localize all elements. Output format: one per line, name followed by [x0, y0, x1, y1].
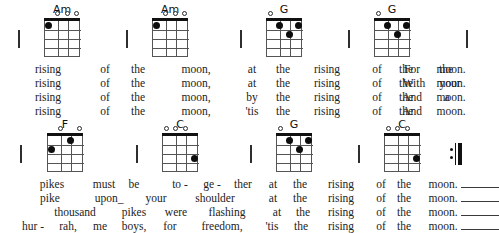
- fret-grid-lines: [47, 136, 83, 172]
- open-string-markers: [266, 11, 302, 18]
- string-line: [176, 136, 177, 172]
- lyric-syllable: the: [397, 191, 411, 205]
- open-string-circle-icon: [163, 11, 168, 16]
- lyric-syllable: the: [276, 104, 290, 118]
- lyric-syllable: of: [372, 90, 382, 104]
- open-string-circle-icon: [74, 11, 79, 16]
- barline: [358, 145, 360, 163]
- lyric-syllable: moon,: [181, 62, 210, 76]
- barline: [126, 30, 128, 48]
- open-string-markers: [276, 126, 312, 133]
- fret-line: [267, 48, 303, 49]
- lyric-syllable: rising: [328, 177, 354, 191]
- lyric-syllable: of: [376, 205, 386, 219]
- barline: [466, 30, 468, 48]
- lyric-line: risingofthemoon,attherisingofthemoon.Wit…: [0, 76, 480, 90]
- lyric-syllable: for: [163, 219, 176, 233]
- lyric-syllable: the: [276, 76, 290, 90]
- string-line: [186, 136, 187, 172]
- lyric-syllable: at: [269, 191, 277, 205]
- open-string-circle-icon: [183, 126, 188, 131]
- lyric-syllable: freedom,: [201, 219, 242, 233]
- fret-line: [153, 39, 189, 40]
- chord-diagram-am[interactable]: Am: [138, 4, 202, 60]
- lyric-syllable: at: [273, 205, 281, 219]
- lyric-syllable: rising: [35, 104, 61, 118]
- fretboard-grid: [47, 133, 83, 173]
- fret-line: [163, 163, 199, 164]
- lyrics-block: risingofthemoon,attherisingofthemoon.For…: [0, 62, 480, 118]
- chord-diagram-c[interactable]: C: [370, 119, 434, 175]
- lyric-syllable: thousand: [54, 205, 96, 219]
- fretboard-grid: [384, 133, 420, 173]
- fret-line: [153, 30, 189, 31]
- lyric-syllable: pikes: [122, 205, 146, 219]
- chord-diagram-g[interactable]: G: [252, 4, 316, 60]
- fret-line: [45, 30, 81, 31]
- open-string-markers: [152, 11, 188, 18]
- open-string-circle-icon: [268, 11, 273, 16]
- lyric-syllable: the: [397, 219, 411, 233]
- finger-position-dot: [384, 22, 391, 29]
- lyric-syllable: rising: [314, 76, 340, 90]
- string-line: [290, 21, 291, 57]
- lyric-syllable: ther: [234, 177, 252, 191]
- finger-position-dot: [67, 137, 74, 144]
- finger-position-dot: [305, 137, 312, 144]
- lyric-syllable: moon.: [436, 104, 465, 118]
- chord-diagram-row: AmAmGG: [0, 4, 480, 60]
- string-line: [398, 21, 399, 57]
- lyric-syllable: at: [248, 62, 256, 76]
- lyric-syllable: the: [293, 177, 307, 191]
- fret-line: [153, 48, 189, 49]
- lyric-syllable: the: [276, 62, 290, 76]
- lyric-syllable: the: [131, 62, 145, 76]
- finger-position-dot: [286, 31, 293, 38]
- lyric-syllable: be: [129, 177, 140, 191]
- string-line: [58, 21, 59, 57]
- finger-position-dot: [394, 31, 401, 38]
- chord-diagram-row: FCGC: [0, 119, 480, 175]
- chord-diagram-f[interactable]: F: [33, 119, 97, 175]
- lyrics-block: pikesmustbeto -ge -therattherisingofthem…: [0, 177, 480, 233]
- lyric-syllable: by: [246, 90, 258, 104]
- chord-diagram-g[interactable]: G: [262, 119, 326, 175]
- finger-position-dot: [191, 155, 198, 162]
- finger-position-dot: [286, 137, 293, 144]
- lyric-extender-line: [461, 192, 499, 202]
- lyric-syllable: ge -: [203, 177, 221, 191]
- lyric-syllable: rising: [35, 90, 61, 104]
- repeat-dot: [450, 148, 453, 151]
- chord-diagram-g[interactable]: G: [360, 4, 424, 60]
- lyric-syllable: rising: [314, 62, 340, 76]
- lyric-syllable: With: [403, 76, 426, 90]
- fret-line: [45, 39, 81, 40]
- open-string-markers: [44, 11, 80, 18]
- open-string-circle-icon: [182, 11, 187, 16]
- lyric-syllable: pikes: [40, 177, 64, 191]
- lyric-syllable: the: [397, 177, 411, 191]
- fret-line: [163, 145, 199, 146]
- lyric-syllable: rising: [35, 76, 61, 90]
- fret-line: [48, 163, 84, 164]
- lyric-syllable: And: [402, 104, 422, 118]
- lyric-syllable: your: [439, 76, 460, 90]
- barline: [136, 145, 138, 163]
- lyric-syllable: boys,: [122, 219, 147, 233]
- chord-diagram-c[interactable]: C: [148, 119, 212, 175]
- open-string-circle-icon: [55, 11, 60, 16]
- chord-diagram-am[interactable]: Am: [30, 4, 94, 60]
- fret-line: [375, 39, 411, 40]
- lyric-syllable: of: [376, 177, 386, 191]
- lyric-syllable: shoulder: [195, 191, 235, 205]
- lyric-syllable: the: [296, 205, 310, 219]
- lyric-syllable: 'tis: [266, 219, 279, 233]
- lyric-syllable: of: [376, 219, 386, 233]
- finger-position-dot: [413, 155, 420, 162]
- lyric-syllable: to -: [172, 177, 188, 191]
- lyric-syllable: of: [372, 104, 382, 118]
- fretboard-grid: [266, 18, 302, 58]
- lyric-syllable: moon,: [181, 90, 210, 104]
- fret-line: [267, 30, 303, 31]
- lyric-syllable: a: [444, 90, 449, 104]
